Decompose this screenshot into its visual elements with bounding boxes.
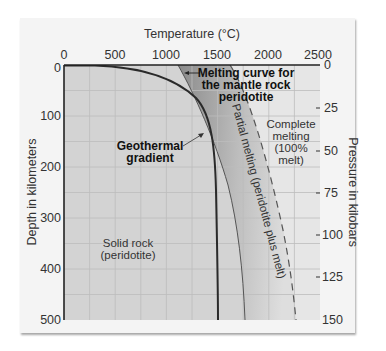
plot-area [64,65,320,320]
left-axis-title: Depth in kilometers [25,139,39,246]
y-tick: 500 [40,313,61,327]
geotherm-label-line: gradient [126,151,173,165]
x-tick: 2000 [254,48,282,62]
geotherm-chart: Temperature (°C) 0 500 1000 1500 2000 25… [0,0,386,351]
y2-tick-labels: 0 25 50 75 100 125 150 [316,58,343,327]
y2-tick: 125 [322,270,343,284]
y-tick: 0 [54,61,61,75]
solid-rock-label: Solid rock (peridotite) [101,237,156,261]
x-tick: 1000 [152,48,180,62]
x-tick: 0 [61,48,68,62]
y2-tick: 0 [324,58,331,72]
complete-label-line: Complete [266,118,315,130]
y-tick: 400 [40,262,61,276]
y-tick-labels: 0 100 200 300 400 500 [40,61,61,327]
solid-label-line: (peridotite) [101,249,156,261]
complete-label-line: (100% [274,142,307,154]
y-tick: 300 [40,211,61,225]
complete-label-line: melting [272,130,309,142]
right-axis-title: Pressure in kilobars [346,137,360,247]
x-tick-labels: 0 500 1000 1500 2000 2500 [61,48,332,62]
solid-label-line: Solid rock [103,237,154,249]
y2-tick: 75 [324,186,338,200]
x-tick: 1500 [203,48,231,62]
x-tick: 500 [105,48,126,62]
y2-tick: 25 [324,101,338,115]
complete-label-line: melt) [278,154,304,166]
y2-tick: 150 [322,313,343,327]
y2-tick: 50 [324,144,338,158]
y-tick: 100 [40,109,61,123]
top-axis-title: Temperature (°C) [144,27,240,41]
y-tick: 200 [40,160,61,174]
melting-curve-label-line: peridotite [219,90,274,104]
y2-tick: 100 [322,228,343,242]
